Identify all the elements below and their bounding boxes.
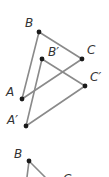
label-c-prime: C′ (90, 70, 101, 84)
label-b: B (25, 16, 33, 30)
label-b-prime: B′ (48, 45, 59, 59)
label-c: C (87, 43, 96, 57)
point-b-prime (40, 57, 45, 62)
label-c-lower: C (63, 172, 72, 177)
point-a-prime (24, 124, 29, 129)
label-a-prime: A′ (6, 113, 18, 127)
point-a (20, 97, 25, 102)
label-b-lower: B (14, 147, 22, 161)
point-b (37, 30, 42, 35)
point-c-prime (83, 84, 88, 89)
label-a: A (5, 85, 14, 99)
point-c (80, 57, 85, 62)
segment-bc-lower (29, 161, 45, 177)
triangle-a-prime-b-prime-c-prime (26, 59, 85, 126)
second-figure-partial: B C (14, 147, 72, 177)
segment-ab-lower (27, 161, 29, 177)
point-b-lower (27, 159, 32, 164)
segment-bc (39, 32, 82, 59)
transformation-diagram: B C A B′ C′ A′ B C (0, 0, 109, 177)
